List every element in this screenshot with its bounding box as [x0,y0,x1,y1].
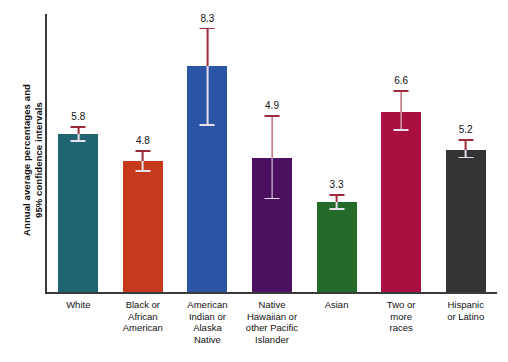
error-bar-lower [458,150,473,158]
error-bar-lower [135,161,150,172]
error-bar-lower [71,134,86,142]
bar-group[interactable]: 4.8 [123,14,163,292]
x-axis-line [45,292,497,294]
error-bar-upper [458,139,473,150]
bar-value-label: 3.3 [330,179,344,190]
bar-value-label: 5.2 [459,124,473,135]
bar[interactable] [446,150,486,292]
error-bar-upper [71,126,86,134]
bar-group[interactable]: 8.3 [187,14,227,292]
bar-group[interactable]: 5.2 [446,14,486,292]
error-bar-lower [200,66,215,126]
x-axis-category-label: Hispanic or Latino [433,299,498,322]
bar-value-label: 4.8 [136,135,150,146]
error-bar-upper [329,194,344,202]
error-bar-upper [394,90,409,112]
x-axis-category-label: Two or more races [369,299,434,334]
error-bar-lower [329,202,344,210]
x-axis-category-label: White [46,299,111,311]
x-axis-category-label: Native Hawaiian or other Pacific Islande… [240,299,305,345]
bar-chart-figure: Annual average percentages and 95% confi… [0,0,508,362]
bar-group[interactable]: 5.8 [58,14,98,292]
bar[interactable] [317,202,357,292]
bar[interactable] [381,112,421,292]
error-bar-upper [265,115,280,159]
bar-value-label: 8.3 [200,13,214,24]
bar[interactable] [123,161,163,292]
plot-area: 5.84.88.34.93.36.65.2 [46,14,498,292]
error-bar-upper [200,28,215,66]
error-bar-upper [135,150,150,161]
bar-group[interactable]: 4.9 [252,14,292,292]
bar-value-label: 5.8 [71,111,85,122]
error-bar-lower [265,158,280,199]
x-axis-category-label: Black or African American [111,299,176,334]
x-axis-category-label: Asian [304,299,369,311]
bar-value-label: 6.6 [394,75,408,86]
bar-group[interactable]: 6.6 [381,14,421,292]
y-axis-title: Annual average percentages and 95% confi… [21,35,45,285]
x-axis-category-label: American Indian or Alaska Native [175,299,240,345]
bar-group[interactable]: 3.3 [317,14,357,292]
bar[interactable] [58,134,98,292]
bar-value-label: 4.9 [265,100,279,111]
error-bar-lower [394,112,409,131]
